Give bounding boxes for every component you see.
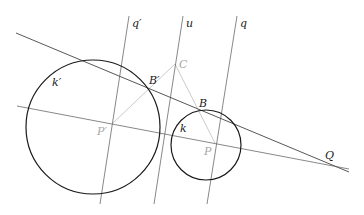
- label-point-b: B: [198, 97, 207, 110]
- label-k: k: [180, 122, 187, 135]
- label-q-prime: q′: [132, 17, 142, 30]
- label-point-p-prime: P′: [96, 125, 107, 138]
- center-line: [17, 106, 349, 169]
- segment-p-prime-c: [113, 64, 175, 123]
- circle-k-prime: [26, 60, 160, 194]
- line-q-prime: [100, 16, 129, 204]
- label-point-p: P: [203, 145, 212, 158]
- label-point-q: Q: [325, 149, 334, 162]
- tangent-line: [16, 33, 349, 172]
- label-u: u: [186, 17, 193, 30]
- label-q: q: [240, 17, 247, 30]
- geometry-diagram: q′ u q k′ k C B′ B P′ P Q: [0, 0, 364, 215]
- label-point-c: C: [179, 58, 188, 71]
- label-point-b-prime: B′: [148, 74, 160, 87]
- label-k-prime: k′: [52, 76, 62, 89]
